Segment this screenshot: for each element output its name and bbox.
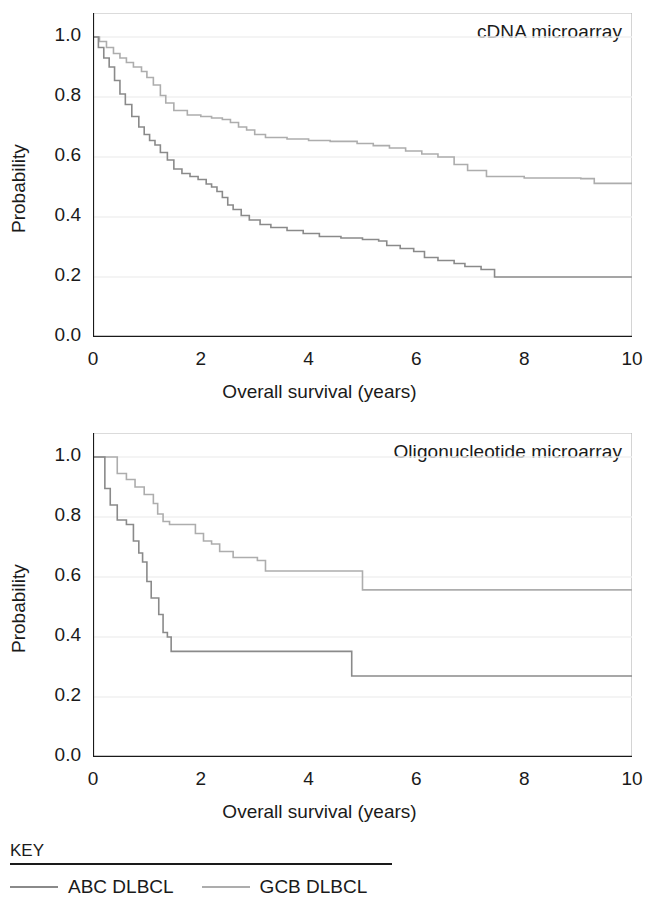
y-tick-label: 0.0	[55, 744, 81, 766]
legend-items: ABC DLBCLGCB DLBCL	[10, 876, 410, 898]
legend-item-label: GCB DLBCL	[260, 876, 368, 898]
x-tick-label: 8	[494, 768, 554, 790]
y-tick-label: 0.2	[55, 684, 81, 706]
x-tick-label: 10	[602, 768, 647, 790]
plot-area-oligo	[93, 433, 632, 757]
x-tick-label: 2	[171, 348, 231, 370]
legend-line-swatch	[10, 886, 58, 888]
legend-divider	[10, 863, 392, 865]
x-tick-label: 8	[494, 348, 554, 370]
x-tick-label: 0	[63, 768, 123, 790]
x-tick-label: 4	[279, 348, 339, 370]
y-tick-label: 0.4	[55, 204, 81, 226]
x-axis-label-top: Overall survival (years)	[0, 381, 639, 403]
y-tick-label: 0.6	[55, 144, 81, 166]
legend-item-label: ABC DLBCL	[68, 876, 174, 898]
plot-area-cdna	[93, 13, 632, 337]
y-tick-label: 0.2	[55, 264, 81, 286]
x-tick-label: 0	[63, 348, 123, 370]
chart-panel-cdna: cDNA microarray Probability Overall surv…	[0, 0, 639, 420]
survival-curves-cdna	[93, 13, 632, 337]
y-axis-label-top: Probability	[8, 144, 30, 233]
y-tick-label: 0.8	[55, 504, 81, 526]
x-tick-label: 2	[171, 768, 231, 790]
y-tick-label: 0.6	[55, 564, 81, 586]
survival-curves-oligo	[93, 433, 632, 757]
legend-title: KEY	[10, 841, 410, 861]
y-axis-label-bottom: Probability	[8, 564, 30, 653]
x-axis-label-bottom: Overall survival (years)	[0, 801, 639, 823]
legend-item: GCB DLBCL	[202, 876, 368, 898]
legend-item: ABC DLBCL	[10, 876, 174, 898]
legend-key: KEY ABC DLBCLGCB DLBCL	[10, 841, 410, 898]
y-tick-label: 0.4	[55, 624, 81, 646]
chart-panel-oligo: Oligonucleotide microarray Probability O…	[0, 420, 639, 840]
y-tick-label: 1.0	[55, 24, 81, 46]
x-tick-label: 10	[602, 348, 647, 370]
x-tick-label: 6	[386, 768, 446, 790]
y-tick-label: 0.8	[55, 84, 81, 106]
x-tick-label: 6	[386, 348, 446, 370]
y-tick-label: 1.0	[55, 444, 81, 466]
x-tick-label: 4	[279, 768, 339, 790]
y-tick-label: 0.0	[55, 324, 81, 346]
legend-line-swatch	[202, 886, 250, 888]
